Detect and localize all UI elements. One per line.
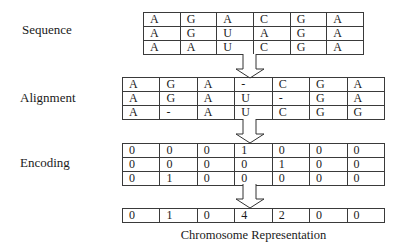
table-cell: A xyxy=(327,13,364,27)
table-cell: A xyxy=(347,78,384,92)
table-cell: 0 xyxy=(347,158,384,172)
table-cell: 0 xyxy=(235,158,272,172)
table-row: 0000100 xyxy=(123,158,385,172)
table-cell: A xyxy=(180,41,217,55)
table-cell: A xyxy=(144,13,181,27)
table-cell: - xyxy=(160,106,197,120)
table-cell: - xyxy=(272,92,309,106)
table-cell: A xyxy=(144,41,181,55)
sequence-label: Sequence xyxy=(22,22,72,38)
table-cell: C xyxy=(272,78,309,92)
table-cell: U xyxy=(217,27,254,41)
table-cell: 0 xyxy=(310,144,347,158)
table-cell: A xyxy=(253,27,290,41)
table-cell: A xyxy=(197,106,234,120)
table-row: AGACGA xyxy=(144,13,364,27)
table-cell: G xyxy=(310,106,347,120)
table-cell: 0 xyxy=(310,158,347,172)
table-cell: A xyxy=(144,27,181,41)
table-cell: G xyxy=(347,106,384,120)
table-cell: 4 xyxy=(235,209,272,223)
table-cell: 0 xyxy=(272,172,309,186)
table-cell: G xyxy=(290,27,327,41)
table-cell: G xyxy=(310,78,347,92)
table-cell: 0 xyxy=(123,209,160,223)
down-arrow-icon xyxy=(234,119,266,144)
table-cell: 0 xyxy=(310,209,347,223)
table-cell: C xyxy=(253,41,290,55)
table-cell: 1 xyxy=(160,172,197,186)
table-row: 0104200 xyxy=(123,209,385,223)
encoding-table: 000100000001000100000 xyxy=(122,143,385,186)
table-cell: 0 xyxy=(123,158,160,172)
table-cell: 1 xyxy=(235,144,272,158)
table-cell: 0 xyxy=(347,144,384,158)
table-cell: 0 xyxy=(197,172,234,186)
table-cell: U xyxy=(235,106,272,120)
table-cell: U xyxy=(235,92,272,106)
table-cell: 0 xyxy=(197,158,234,172)
table-cell: U xyxy=(217,41,254,55)
table-cell: 0 xyxy=(347,172,384,186)
table-cell: A xyxy=(217,13,254,27)
table-cell: - xyxy=(235,78,272,92)
chromosome-caption: Chromosome Representation xyxy=(122,228,385,243)
table-cell: G xyxy=(180,13,217,27)
table-row: AGUAGA xyxy=(144,27,364,41)
table-cell: C xyxy=(253,13,290,27)
table-cell: 0 xyxy=(272,144,309,158)
table-cell: 0 xyxy=(123,144,160,158)
table-cell: A xyxy=(347,92,384,106)
table-cell: 0 xyxy=(197,144,234,158)
table-cell: G xyxy=(180,27,217,41)
table-cell: 0 xyxy=(347,209,384,223)
table-cell: 0 xyxy=(310,172,347,186)
table-cell: A xyxy=(123,106,160,120)
sequence-table: AGACGAAGUAGAAAUCGA xyxy=(143,12,364,55)
table-cell: 1 xyxy=(160,209,197,223)
alignment-label: Alignment xyxy=(20,90,76,106)
table-cell: A xyxy=(327,27,364,41)
table-cell: 0 xyxy=(160,158,197,172)
table-cell: A xyxy=(197,92,234,106)
table-cell: 0 xyxy=(160,144,197,158)
table-row: A-AUCGG xyxy=(123,106,385,120)
table-cell: G xyxy=(290,13,327,27)
table-cell: A xyxy=(123,92,160,106)
table-row: AGAU-GA xyxy=(123,92,385,106)
alignment-table: AGA-CGAAGAU-GAA-AUCGG xyxy=(122,77,385,120)
table-cell: G xyxy=(160,92,197,106)
table-cell: G xyxy=(310,92,347,106)
table-cell: G xyxy=(290,41,327,55)
table-cell: A xyxy=(123,78,160,92)
down-arrow-icon xyxy=(234,54,266,79)
table-cell: 2 xyxy=(272,209,309,223)
table-cell: A xyxy=(327,41,364,55)
table-cell: C xyxy=(272,106,309,120)
table-row: AGA-CGA xyxy=(123,78,385,92)
table-cell: A xyxy=(197,78,234,92)
table-row: AAUCGA xyxy=(144,41,364,55)
table-cell: 1 xyxy=(272,158,309,172)
encoding-label: Encoding xyxy=(20,155,70,171)
down-arrow-icon xyxy=(234,184,266,209)
chromosome-table: 0104200 xyxy=(122,208,385,223)
table-cell: G xyxy=(160,78,197,92)
table-cell: 0 xyxy=(123,172,160,186)
table-row: 0001000 xyxy=(123,144,385,158)
table-cell: 0 xyxy=(197,209,234,223)
